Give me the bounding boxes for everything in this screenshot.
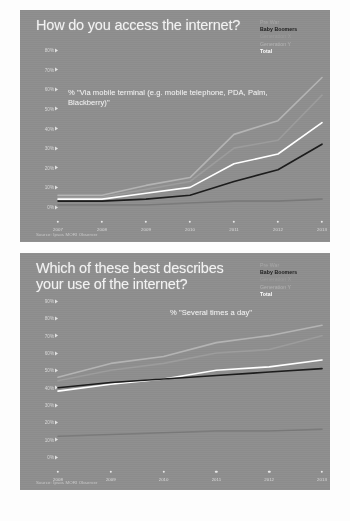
x-axis-tick-label: 2009 (141, 227, 151, 232)
y-axis-tick: 80% (45, 316, 58, 321)
y-axis-tick: 70% (45, 67, 58, 72)
x-axis-marker (268, 471, 270, 473)
series-line-baby-boomers (58, 369, 322, 388)
legend-item-baby-boomers[interactable]: Baby Boomers (260, 26, 322, 33)
y-axis-tick: 80% (45, 48, 58, 53)
y-axis-tick-label: 20% (45, 420, 54, 425)
line-series-group (58, 301, 322, 457)
line-series-group (58, 50, 322, 207)
x-axis-tick-label: 2008 (97, 227, 107, 232)
y-axis-tick-label: 60% (45, 351, 54, 356)
y-axis-tick: 40% (45, 126, 58, 131)
x-axis-tick-label: 2011 (229, 227, 238, 232)
series-line-total (58, 123, 322, 200)
series-line-total (58, 360, 322, 391)
source-note: Source: Ipsos MORI Observer (36, 480, 98, 485)
y-axis-tick-label: 50% (45, 368, 54, 373)
y-axis-tick-label: 40% (45, 385, 54, 390)
legend-item-generation-y[interactable]: Generation Y (260, 41, 322, 48)
x-axis-marker (162, 471, 164, 473)
y-axis-tick-label: 50% (45, 106, 54, 111)
x-axis-tick-label: 2009 (106, 477, 116, 482)
x-axis-marker (321, 471, 323, 473)
y-axis-tick-label: 80% (45, 48, 54, 53)
y-axis-tick-label: 40% (45, 126, 54, 131)
y-axis-tick: 20% (45, 165, 58, 170)
y-axis-tick-label: 10% (45, 437, 54, 442)
y-axis-tick: 10% (45, 185, 58, 190)
legend-item-generation-x[interactable]: Generation X (260, 33, 322, 40)
series-line-pre-war (58, 429, 322, 436)
y-axis-tick: 50% (45, 368, 58, 373)
x-axis-marker (101, 221, 103, 223)
legend-item-baby-boomers[interactable]: Baby Boomers (260, 269, 322, 276)
series-line-generation-x (58, 95, 322, 197)
y-axis-tick: 50% (45, 106, 58, 111)
x-axis-tick-label: 2012 (264, 477, 274, 482)
x-axis-marker (57, 221, 59, 223)
y-axis-tick-label: 20% (45, 165, 54, 170)
legend-item-generation-x[interactable]: Generation X (260, 276, 322, 283)
y-axis-tick-label: 0% (47, 455, 54, 460)
series-line-baby-boomers (58, 144, 322, 201)
y-axis-tick-label: 80% (45, 316, 54, 321)
page-title: How do you access the internet? (36, 18, 240, 34)
x-axis-marker (321, 221, 323, 223)
y-axis-tick: 60% (45, 87, 58, 92)
y-axis-tick-label: 60% (45, 87, 54, 92)
x-axis-marker (215, 471, 217, 473)
legend-item-pre-war[interactable]: Pre War (260, 262, 322, 269)
x-axis-tick-label: 2011 (212, 477, 221, 482)
y-axis-tick: 0% (47, 455, 58, 460)
x-axis-marker (145, 221, 147, 223)
y-axis-tick: 10% (45, 437, 58, 442)
y-axis: 0%10%20%30%40%50%60%70%80% (36, 50, 58, 207)
page-title: Which of these best describes your use o… (36, 261, 251, 292)
y-axis-tick: 40% (45, 385, 58, 390)
y-axis-tick-label: 70% (45, 67, 54, 72)
y-axis-tick-label: 0% (47, 205, 54, 210)
y-axis-tick: 70% (45, 333, 58, 338)
x-axis-tick-label: 2010 (185, 227, 195, 232)
y-axis-tick: 30% (45, 403, 58, 408)
x-axis-tick-label: 2012 (273, 227, 283, 232)
y-axis-tick: 90% (45, 299, 58, 304)
chart-slide-internet-access: How do you access the internet? Pre War … (20, 10, 330, 242)
y-axis-tick-label: 30% (45, 146, 54, 151)
y-axis-tick-label: 30% (45, 403, 54, 408)
plot-area (58, 50, 322, 207)
y-axis: 0%10%20%30%40%50%60%70%80%90% (36, 301, 58, 457)
source-note: Source: Ipsos MORI Observer (36, 232, 98, 237)
y-axis-tick-label: 90% (45, 299, 54, 304)
y-axis-tick: 60% (45, 351, 58, 356)
y-axis-tick-label: 70% (45, 333, 54, 338)
chart-slide-internet-use: Which of these best describes your use o… (20, 253, 330, 490)
series-line-pre-war (58, 199, 322, 205)
y-axis-tick: 0% (47, 205, 58, 210)
x-axis-marker (233, 221, 235, 223)
y-axis-tick-label: 10% (45, 185, 54, 190)
y-axis-tick: 30% (45, 146, 58, 151)
legend-item-generation-y[interactable]: Generation Y (260, 284, 322, 291)
legend: Pre War Baby Boomers Generation X Genera… (260, 262, 322, 298)
legend-item-total[interactable]: Total (260, 291, 322, 298)
legend-item-pre-war[interactable]: Pre War (260, 19, 322, 26)
slide-page: How do you access the internet? Pre War … (0, 0, 350, 521)
y-axis-tick: 20% (45, 420, 58, 425)
series-line-generation-y (58, 325, 322, 377)
x-axis-tick-label: 2013 (317, 227, 327, 232)
x-axis-tick-label: 2013 (317, 477, 327, 482)
x-axis-marker (110, 471, 112, 473)
x-axis-tick-label: 2010 (159, 477, 169, 482)
x-axis-marker (189, 221, 191, 223)
x-axis-marker (277, 221, 279, 223)
plot-area (58, 301, 322, 457)
x-axis-marker (57, 471, 59, 473)
